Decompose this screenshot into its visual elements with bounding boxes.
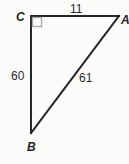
side-length-label-cb: 60 bbox=[11, 70, 24, 82]
side-length-label-ab: 61 bbox=[79, 72, 92, 84]
right-angle-marker bbox=[33, 18, 42, 27]
vertex-label-a: A bbox=[121, 14, 129, 26]
vertex-label-c: C bbox=[16, 11, 25, 23]
right-triangle-figure: C A B 11 60 61 bbox=[0, 0, 129, 164]
side-length-label-ca: 11 bbox=[70, 3, 82, 15]
vertex-label-b: B bbox=[27, 141, 36, 153]
triangle-side-ab-line bbox=[31, 16, 119, 133]
